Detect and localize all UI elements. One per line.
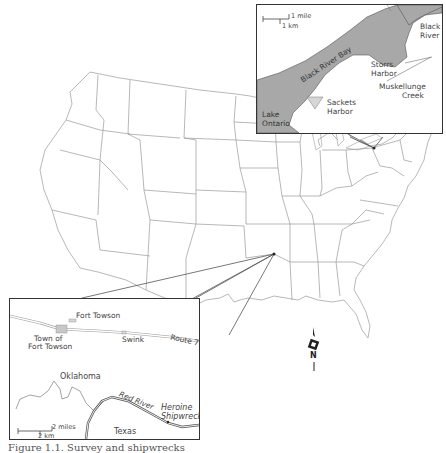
inset-fort-towson: Fort Towson Town of Fort Towson Swink Ro… (9, 298, 200, 440)
fort-towson-label: Fort Towson (76, 312, 120, 320)
sackets-harbor-label-2: Harbor (327, 108, 353, 116)
storrs-harbor-label-1: Storrs (371, 61, 393, 69)
scale-km-label: 1 km (282, 22, 298, 30)
muskellunge-creek-label-1: Muskellunge (379, 83, 426, 91)
fort-towson-area (69, 319, 76, 322)
heroine-shipwreck-label-1: Heroine (161, 404, 192, 412)
sackets-harbor-label-1: Sackets (327, 99, 356, 107)
lake-ontario-label-1: Lake (262, 111, 279, 119)
north-arrow: N (306, 325, 322, 375)
swink-marker (122, 331, 126, 334)
storrs-harbor-label-2: Harbor (371, 70, 397, 78)
heroine-shipwreck-label-2: Shipwreck (161, 413, 200, 421)
figure-caption: Figure 1.1. Survey and shipwrecks (8, 442, 185, 453)
lake-ontario-label-2: Ontario (262, 120, 290, 128)
scale-km-label-ok: 2 km (38, 432, 54, 440)
shipwreck-marker (167, 421, 169, 423)
scale-mile-label: 1 mile (291, 12, 311, 20)
black-river-label-2: River (420, 32, 439, 40)
north-arrow-icon (306, 325, 322, 375)
black-river-label-1: Black (420, 23, 440, 31)
inset-black-river-bay: 1 mile 1 km Black River Black River Bay … (256, 4, 443, 134)
texas-label: Texas (114, 428, 136, 436)
swink-label: Swink (122, 336, 144, 344)
town-of-fort-towson-area (56, 325, 67, 333)
north-label: N (310, 352, 317, 360)
muskellunge-creek-label-2: Creek (402, 92, 424, 100)
sackets-harbor-area (307, 97, 323, 109)
town-of-fort-towson-label-2: Fort Towson (28, 343, 72, 351)
scale-miles-label: 2 miles (52, 423, 76, 431)
oklahoma-label: Oklahoma (60, 373, 101, 381)
